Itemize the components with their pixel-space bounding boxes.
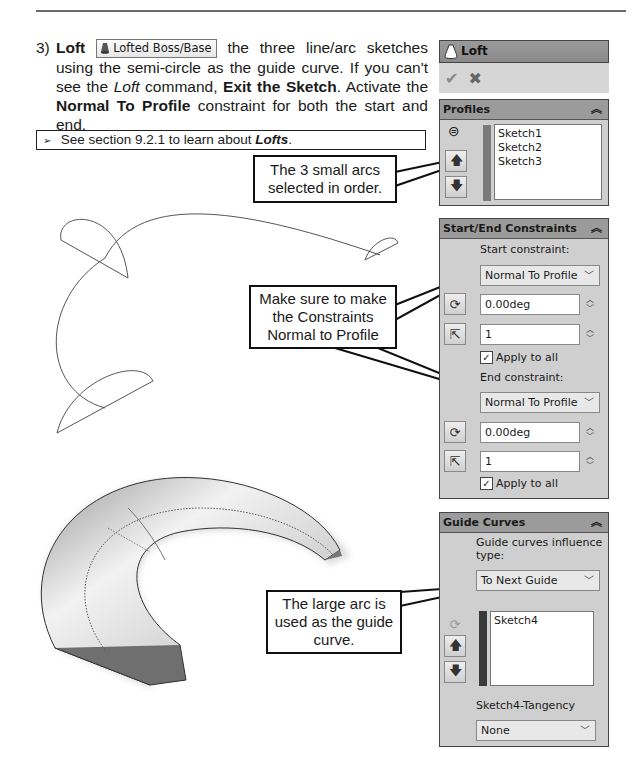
end-constraint-value: Normal To Profile — [485, 396, 578, 409]
arrow-up-icon: 🡅 — [450, 150, 463, 172]
guide-curves-title: Guide Curves — [443, 516, 525, 529]
rotate-icon: ⟳ — [450, 425, 461, 440]
cancel-x-icon[interactable]: ✖ — [468, 69, 481, 88]
chevron-down-icon: ﹀ — [584, 393, 594, 412]
tangency-select[interactable]: None ﹀ — [476, 720, 596, 741]
rotate-icon: ⟳ — [450, 297, 461, 312]
start-apply-all-label: Apply to all — [496, 351, 558, 364]
influence-type-value: To Next Guide — [481, 574, 558, 587]
arrow-up-icon: 🡅 — [449, 635, 462, 657]
tangency-label: Sketch4-Tangency — [476, 699, 575, 712]
start-angle-input[interactable]: 0.00deg — [480, 294, 580, 315]
profiles-color-bar — [483, 125, 491, 201]
profile-swap-icon[interactable]: ⊜ — [448, 125, 460, 137]
influence-type-select[interactable]: To Next Guide ﹀ — [476, 570, 600, 591]
end-constraint-label: End constraint: — [480, 371, 564, 384]
end-tangent-length-button[interactable]: ⇱ — [444, 450, 466, 472]
checkbox-checked-icon: ✓ — [480, 351, 493, 364]
chevron-down-icon: ﹀ — [584, 266, 594, 285]
end-apply-all-checkbox[interactable]: ✓ Apply to all — [480, 477, 558, 490]
start-length-spinner[interactable]: ︿﹀ — [583, 325, 597, 346]
pm-title-bar: Loft — [439, 40, 609, 63]
collapse-chevron-icon[interactable]: ︽ — [591, 513, 602, 532]
collapse-chevron-icon[interactable]: ︽ — [591, 219, 602, 238]
arrow-down-icon: 🡇 — [450, 176, 463, 198]
end-length-spinner[interactable]: ︿﹀ — [583, 452, 597, 473]
loft-property-manager: Loft ✔ ✖ Profiles ︽ ⊜ 🡅 🡇 Sketch1 Sketch… — [439, 40, 609, 93]
start-constraint-value: Normal To Profile — [485, 269, 578, 282]
profile-item[interactable]: Sketch3 — [498, 155, 598, 169]
guide-rotate-button[interactable]: ⟳ — [444, 613, 466, 635]
profiles-list[interactable]: Sketch1 Sketch2 Sketch3 — [494, 124, 602, 200]
section-start-end-constraints: Start/End Constraints ︽ Start constraint… — [439, 218, 609, 499]
pm-actions: ✔ ✖ — [439, 63, 609, 93]
guide-curve-item[interactable]: Sketch4 — [494, 614, 590, 628]
section-guide-curves: Guide Curves ︽ Guide curves influence ty… — [439, 512, 609, 747]
end-apply-all-label: Apply to all — [496, 477, 558, 490]
guide-curves-header[interactable]: Guide Curves ︽ — [440, 513, 608, 533]
end-angle-spinner[interactable]: ︿﹀ — [583, 423, 597, 444]
end-angle-input[interactable]: 0.00deg — [480, 422, 580, 443]
loft-icon — [444, 44, 458, 60]
collapse-chevron-icon[interactable]: ︽ — [591, 100, 602, 119]
end-constraint-select[interactable]: Normal To Profile ﹀ — [480, 392, 600, 413]
guide-move-up-button[interactable]: 🡅 — [444, 635, 466, 657]
end-length-input[interactable]: 1 — [480, 451, 580, 472]
ok-check-icon[interactable]: ✔ — [445, 69, 458, 88]
profile-item[interactable]: Sketch2 — [498, 141, 598, 155]
start-apply-all-checkbox[interactable]: ✓ Apply to all — [480, 351, 558, 364]
profiles-title: Profiles — [443, 103, 490, 116]
pm-title: Loft — [461, 41, 488, 62]
profiles-header[interactable]: Profiles ︽ — [440, 100, 608, 120]
callout-guide-curve: The large arc is used as the guide curve… — [266, 590, 402, 654]
section-profiles: Profiles ︽ ⊜ 🡅 🡇 Sketch1 Sketch2 Sketch3 — [439, 99, 609, 206]
tangency-value: None — [481, 724, 510, 737]
start-constraint-label: Start constraint: — [480, 243, 569, 256]
profile-item[interactable]: Sketch1 — [498, 127, 598, 141]
chevron-down-icon: ﹀ — [584, 571, 594, 590]
influence-type-label: Guide curves influence type: — [476, 536, 606, 562]
guide-curves-list[interactable]: Sketch4 — [490, 611, 594, 686]
start-end-title: Start/End Constraints — [443, 222, 577, 235]
move-down-button[interactable]: 🡇 — [445, 176, 467, 198]
tangent-length-icon: ⇱ — [450, 327, 461, 342]
direction-vector-button[interactable]: ⟳ — [444, 293, 466, 315]
chevron-down-icon: ﹀ — [580, 721, 590, 740]
checkbox-checked-icon: ✓ — [480, 477, 493, 490]
start-angle-spinner[interactable]: ︿﹀ — [583, 295, 597, 316]
arrow-down-icon: 🡇 — [449, 661, 462, 683]
loft-3d-model — [41, 478, 350, 688]
callout-constraints: Make sure to make the Constraints Normal… — [249, 285, 397, 349]
tangent-length-icon: ⇱ — [450, 454, 461, 469]
rotate-icon: ⟳ — [450, 617, 461, 632]
start-constraint-select[interactable]: Normal To Profile ﹀ — [480, 265, 600, 286]
start-end-header[interactable]: Start/End Constraints ︽ — [440, 219, 608, 239]
end-direction-vector-button[interactable]: ⟳ — [444, 421, 466, 443]
move-up-button[interactable]: 🡅 — [445, 150, 467, 172]
guide-move-down-button[interactable]: 🡇 — [444, 661, 466, 683]
start-length-input[interactable]: 1 — [480, 324, 580, 345]
guide-color-bar — [479, 611, 487, 686]
callout-profiles: The 3 small arcs selected in order. — [253, 155, 397, 203]
tangent-length-button[interactable]: ⇱ — [444, 323, 466, 345]
